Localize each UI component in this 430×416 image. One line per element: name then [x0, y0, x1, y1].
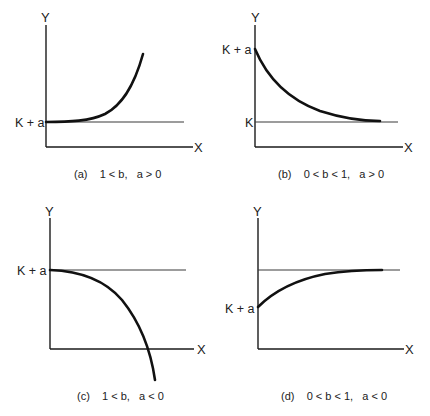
decay-curve	[255, 49, 380, 121]
k-plus-a-label: K + a	[222, 43, 252, 57]
growth-curve	[46, 54, 143, 122]
k-plus-a-label: K + a	[17, 264, 47, 278]
x-axis-label: X	[197, 342, 206, 357]
panel-b: Y X K K + a (b) 0 < b < 1, a > 0	[222, 10, 413, 180]
y-axis-label: Y	[41, 10, 50, 25]
k-label: K	[245, 116, 254, 130]
panel-caption: (b) 0 < b < 1, a > 0	[278, 168, 384, 180]
k-plus-a-label: K + a	[15, 116, 45, 130]
k-plus-a-label: K + a	[225, 302, 255, 316]
declining-curve	[50, 270, 155, 380]
x-axis-label: X	[404, 140, 413, 155]
panel-caption: (d) 0 < b < 1, a < 0	[281, 390, 387, 402]
x-axis-label: X	[194, 140, 203, 155]
y-axis-label: Y	[251, 10, 260, 25]
panel-c: Y X K + a (c) 1 < b, a < 0	[17, 204, 206, 402]
panel-caption: (c) 1 < b, a < 0	[77, 390, 164, 402]
approach-curve	[258, 270, 382, 307]
y-axis-label: Y	[45, 204, 54, 219]
y-axis-label: Y	[253, 204, 262, 219]
panel-a: Y X K + a (a) 1 < b, a > 0	[15, 10, 203, 180]
panel-caption: (a) 1 < b, a > 0	[74, 168, 161, 180]
modified-exponential-figure: Y X K + a (a) 1 < b, a > 0 Y X K K + a (…	[0, 0, 430, 416]
panel-d: Y X K + a (d) 0 < b < 1, a < 0	[225, 204, 414, 402]
x-axis-label: X	[405, 342, 414, 357]
